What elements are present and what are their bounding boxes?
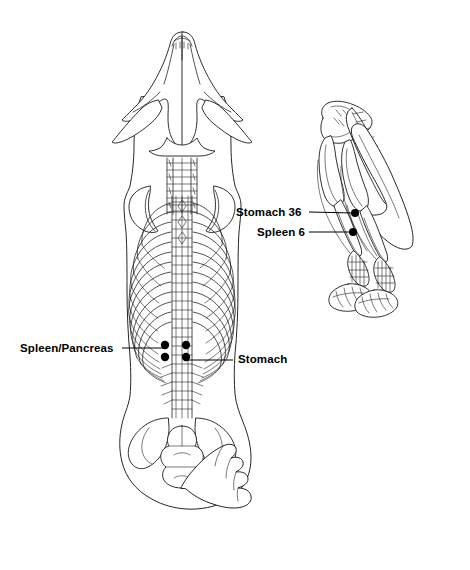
femur-near [319,136,344,206]
hock-near [348,251,369,286]
point-spleen-6[interactable] [349,228,357,236]
dorsal-skeleton-view [112,32,252,509]
diagram-canvas [0,0,470,570]
point-stomach-lower[interactable] [182,353,190,361]
point-spleen-pancreas-lower[interactable] [161,353,169,361]
label-spleen-6: Spleen 6 [257,226,305,238]
point-spleen-pancreas-upper[interactable] [161,341,169,349]
label-stomach-36: Stomach 36 [236,206,302,218]
point-stomach-upper[interactable] [182,341,190,349]
acupuncture-diagram: Spleen/Pancreas Stomach Stomach 36 Splee… [0,0,470,570]
hock-far [374,257,395,292]
point-stomach-36[interactable] [351,209,359,217]
label-stomach: Stomach [238,353,287,365]
label-spleen-pancreas: Spleen/Pancreas [20,342,114,354]
hind-limb-view [317,101,413,317]
